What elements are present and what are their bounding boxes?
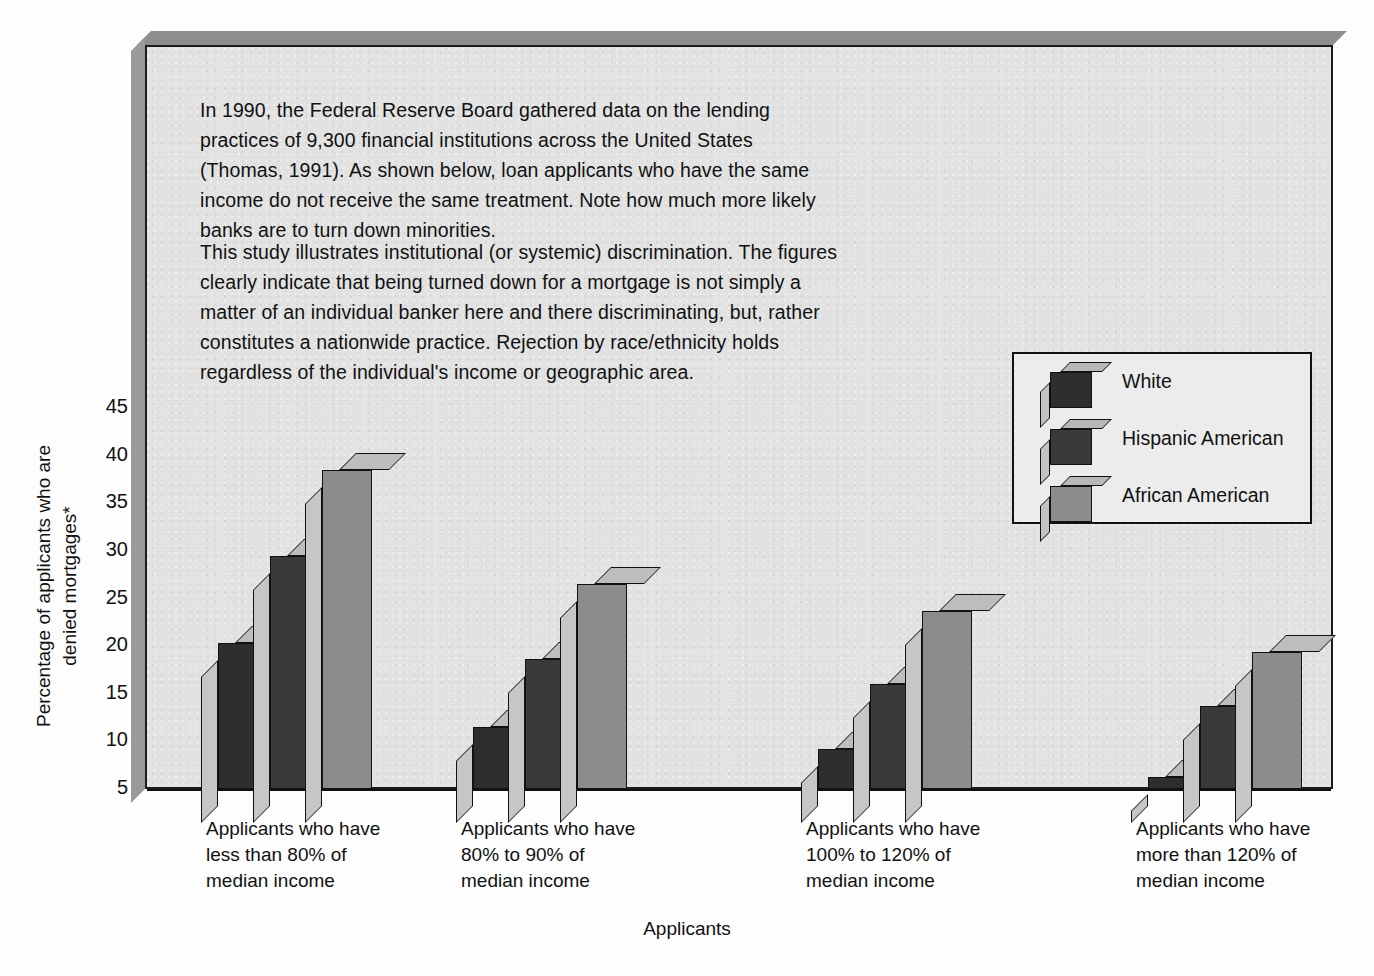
bar-side-face (508, 676, 525, 823)
bar-front-face (322, 470, 372, 789)
bar-side-face (201, 660, 218, 823)
bar-african-american-group-4 (1252, 652, 1302, 789)
bar-side-face (560, 601, 577, 823)
y-axis-tick-label: 45 (88, 395, 128, 418)
bar-front-face (577, 584, 627, 789)
bar-african-american-group-2 (577, 584, 627, 789)
bar-african-american-group-3 (922, 611, 972, 789)
category-label-line: 80% to 90% of (461, 842, 691, 868)
y-axis-tick-label: 25 (88, 586, 128, 609)
bar-side-face (305, 487, 322, 823)
plot-area: 45403530252015105Applicants who haveless… (0, 0, 1374, 976)
x-axis-category-label-3: Applicants who have100% to 120% ofmedian… (806, 816, 1036, 894)
category-label-line: Applicants who have (1136, 816, 1366, 842)
y-axis-tick-label: 10 (88, 728, 128, 751)
x-axis-category-label-1: Applicants who haveless than 80% ofmedia… (206, 816, 436, 894)
bar-african-american-group-1 (322, 470, 372, 789)
bar-front-face (922, 611, 972, 789)
bar-top-face (939, 594, 1006, 611)
category-label-line: median income (1136, 868, 1366, 894)
figure-root: In 1990, the Federal Reserve Board gathe… (0, 0, 1374, 976)
bar-side-face (1183, 723, 1200, 823)
x-axis-category-label-2: Applicants who have80% to 90% ofmedian i… (461, 816, 691, 894)
bar-side-face (253, 573, 270, 823)
bar-side-face (1235, 669, 1252, 823)
y-axis-tick-label: 15 (88, 681, 128, 704)
bar-top-face (594, 567, 661, 584)
bar-front-face (1252, 652, 1302, 789)
y-axis-tick-label: 40 (88, 443, 128, 466)
bar-side-face (853, 701, 870, 823)
bar-top-face (339, 453, 406, 470)
y-axis-tick-label: 30 (88, 538, 128, 561)
bar-side-face (456, 744, 473, 823)
bar-side-face (905, 628, 922, 823)
x-axis-category-label-4: Applicants who havemore than 120% ofmedi… (1136, 816, 1366, 894)
category-label-line: median income (461, 868, 691, 894)
bar-top-face (1269, 635, 1336, 652)
category-label-line: more than 120% of (1136, 842, 1366, 868)
category-label-line: 100% to 120% of (806, 842, 1036, 868)
y-axis-tick-label: 5 (88, 776, 128, 799)
y-axis-tick-label: 35 (88, 490, 128, 513)
x-axis-line (147, 789, 1331, 791)
category-label-line: median income (806, 868, 1036, 894)
y-axis-tick-label: 20 (88, 633, 128, 656)
category-label-line: Applicants who have (206, 816, 436, 842)
bar-side-face (801, 766, 818, 823)
category-label-line: median income (206, 868, 436, 894)
category-label-line: Applicants who have (806, 816, 1036, 842)
category-label-line: Applicants who have (461, 816, 691, 842)
category-label-line: less than 80% of (206, 842, 436, 868)
